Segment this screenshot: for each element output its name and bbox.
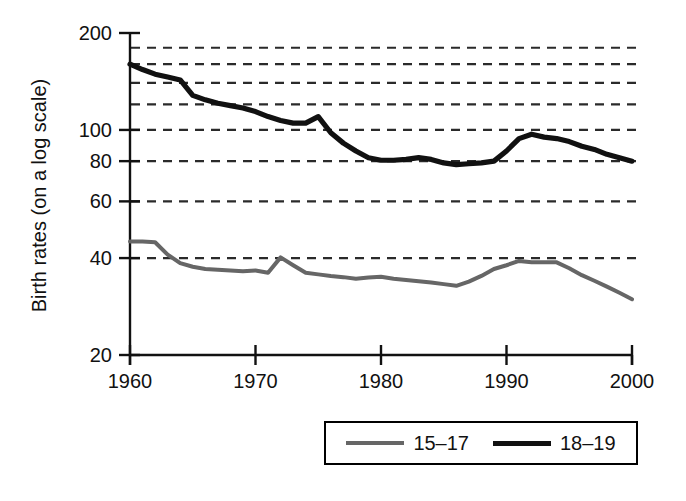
x-tick-label-1990: 1990 (484, 370, 529, 392)
y-tick-label-20: 20 (90, 344, 112, 366)
series-line-15-17 (130, 242, 632, 300)
data-series-group (130, 64, 632, 299)
y-tick-label-60: 60 (90, 190, 112, 212)
x-tick-label-1960: 1960 (108, 370, 153, 392)
series-line-18-19 (130, 64, 632, 164)
legend-label-15-17: 15–17 (413, 432, 469, 455)
x-tick-label-2000: 2000 (610, 370, 655, 392)
y-tick-label-80: 80 (90, 150, 112, 172)
y-tick-label-group: 20010080604020 (79, 22, 112, 366)
y-tick-label-200: 200 (79, 22, 112, 44)
gridline-group (131, 48, 640, 258)
legend-swatch-15-17 (346, 441, 404, 445)
legend-label-18-19: 18–19 (560, 432, 616, 455)
x-tick-label-1980: 1980 (359, 370, 404, 392)
y-tick-label-40: 40 (90, 247, 112, 269)
legend-swatch-18-19 (493, 441, 551, 446)
chart-figure: Birth rates (on a log scale) 20010080604… (0, 0, 686, 501)
chart-legend: 15–17 18–19 (324, 421, 638, 465)
x-tick-label-1970: 1970 (233, 370, 278, 392)
y-tick-label-100: 100 (79, 119, 112, 141)
legend-entry-18-19: 18–19 (493, 432, 616, 455)
legend-entry-15-17: 15–17 (346, 432, 469, 455)
x-tick-label-group: 19601970198019902000 (108, 370, 655, 392)
axis-line-group (130, 33, 632, 365)
